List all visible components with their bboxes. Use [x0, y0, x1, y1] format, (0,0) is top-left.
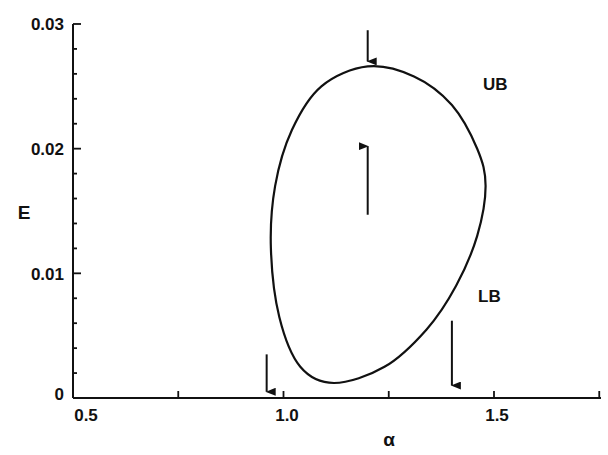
boundary-curve: [271, 66, 486, 383]
arrows: [267, 30, 452, 392]
x-tick-label-1.0: 1.0: [275, 406, 299, 425]
y-tick-label-0.03: 0.03: [31, 15, 64, 34]
y-axis: [73, 24, 81, 398]
x-tick-label-0.5: 0.5: [74, 406, 98, 425]
annotation-lb: LB: [478, 287, 501, 306]
annotation-ub: UB: [483, 75, 508, 94]
y-tick-label-0.02: 0.02: [31, 140, 64, 159]
x-axis: [73, 391, 601, 398]
y-tick-label-0.01: 0.01: [31, 265, 64, 284]
y-axis-label: E: [18, 202, 31, 223]
y-axis-ticks: [73, 24, 81, 398]
chart: 0.03 0.02 0.01 0 0.5 1.0 1.5 E α UB LB: [0, 0, 608, 455]
x-axis-ticks: [178, 391, 599, 398]
x-axis-label: α: [383, 429, 395, 450]
x-tick-label-1.5: 1.5: [485, 406, 509, 425]
y-tick-label-0: 0: [55, 385, 64, 404]
